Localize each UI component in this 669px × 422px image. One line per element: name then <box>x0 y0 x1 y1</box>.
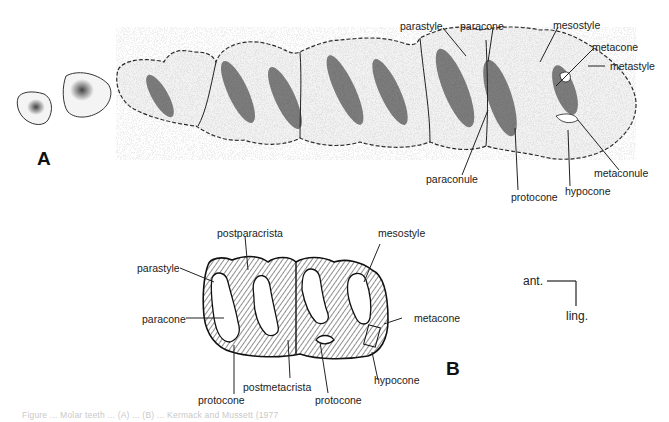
orientation-indicator <box>547 281 576 306</box>
orientation-anterior-label: ant. <box>523 274 543 288</box>
panel-b-letter: B <box>446 358 460 380</box>
label-b-hypocone: hypocone <box>374 374 420 386</box>
label-a-paraconule: paraconule <box>426 173 478 185</box>
label-a-mesostyle: mesostyle <box>553 19 600 31</box>
label-b-postparacrista: postparacrista <box>217 227 283 239</box>
panel-a-tooth-row <box>17 27 636 190</box>
label-a-protocone: protocone <box>511 191 558 203</box>
panel-b-molars <box>180 236 402 394</box>
label-b-mesostyle: mesostyle <box>378 227 425 239</box>
label-b-postmetacrista: postmetacrista <box>243 381 311 393</box>
label-b-paracone: paracone <box>142 313 186 325</box>
label-a-paracone: paracone <box>460 20 504 32</box>
figure-illustration <box>0 0 669 422</box>
label-a-hypocone: hypocone <box>565 185 611 197</box>
orientation-lingual-label: ling. <box>566 309 588 323</box>
label-a-parastyle: parastyle <box>400 20 443 32</box>
label-b-protocone-2: protocone <box>315 394 362 406</box>
label-b-parastyle: parastyle <box>137 262 180 274</box>
label-b-protocone-1: protocone <box>198 394 245 406</box>
label-a-metaconule: metaconule <box>594 167 648 179</box>
panel-a-letter: A <box>37 148 51 170</box>
label-b-metacone: metacone <box>414 312 460 324</box>
label-a-metastyle: metastyle <box>610 60 655 72</box>
figure-caption: Figure ... Molar teeth ... (A) ... (B) .… <box>22 410 278 420</box>
label-a-metacone: metacone <box>592 41 638 53</box>
